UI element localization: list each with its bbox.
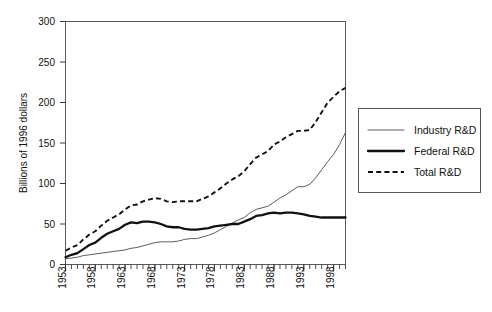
y-axis-ticks (60, 22, 66, 265)
x-tick-label: 1978 (205, 266, 216, 289)
x-tick-label: 1998 (325, 266, 336, 289)
x-tick-label: 1968 (146, 266, 157, 289)
legend-label-industry-rd: Industry R&D (414, 124, 477, 136)
y-tick-label: 0 (49, 259, 55, 270)
x-tick-label: 1983 (235, 266, 246, 289)
y-tick-label: 50 (44, 219, 56, 230)
legend: Industry R&D Federal R&D Total R&D (359, 109, 481, 193)
y-tick-label: 250 (38, 57, 55, 68)
series-line-industry-rd (66, 132, 346, 258)
y-tick-label: 300 (38, 16, 55, 27)
figure-container: Billions of 1996 dollars 300 250 200 150… (0, 0, 492, 312)
x-tick-label: 1993 (295, 266, 306, 289)
legend-label-total-rd: Total R&D (414, 166, 462, 178)
legend-label-federal-rd: Federal R&D (414, 145, 475, 157)
x-tick-label: 1973 (176, 266, 187, 289)
x-axis-tick-labels: 1953195819631968197319781983198819931998 (57, 266, 336, 289)
y-tick-label: 200 (38, 97, 55, 108)
x-tick-label: 1953 (57, 266, 68, 289)
series-line-federal-rd (66, 213, 346, 258)
y-tick-label: 100 (38, 178, 55, 189)
series-line-total-rd (66, 88, 346, 251)
x-tick-label: 1988 (265, 266, 276, 289)
x-tick-label: 1958 (86, 266, 97, 289)
y-axis-label: Billions of 1996 dollars (18, 93, 29, 193)
rd-spending-line-chart: Billions of 1996 dollars 300 250 200 150… (0, 0, 492, 312)
y-tick-label: 150 (38, 138, 55, 149)
x-axis-major-ticks (66, 265, 334, 272)
y-axis-tick-labels: 300 250 200 150 100 50 0 (38, 16, 55, 270)
x-tick-label: 1963 (116, 266, 127, 289)
